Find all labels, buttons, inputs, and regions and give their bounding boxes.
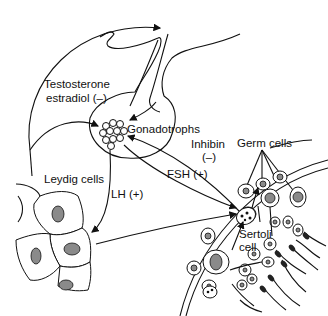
label-sertoli: Sertoli [239,228,272,241]
hypothalamus-to-gonadotroph-arrow [130,102,156,120]
label-inhibin-sign: (–) [199,151,219,164]
label-estradiol: estradiol (–) [46,92,107,105]
hpg-axis-diagram: Testosterone estradiol (–) Gonadotrophs … [0,0,328,316]
label-inhibin: Inhibin [191,138,225,151]
label-lh: LH (+) [111,188,143,201]
steroid-to-pituitary-arrow [30,122,98,150]
lumen-cell [203,286,217,298]
label-sertoli-cell: cell [239,241,256,254]
label-fsh: FSH (+) [167,168,208,181]
diagram-artwork [0,0,328,316]
label-testosterone: Testosterone [44,78,110,91]
leydig-cells [16,184,91,291]
gonadotroph-cluster [100,120,128,150]
label-leydig-cells: Leydig cells [44,173,104,186]
label-germ-cells: Germ cells [237,137,292,150]
lh-arrow [92,150,110,232]
label-gonadotrophs: Gonadotrophs [127,123,200,136]
